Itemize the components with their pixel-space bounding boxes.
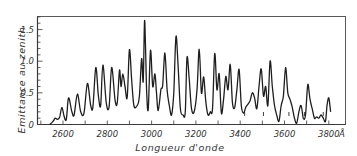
x-axis-label: Longueur d'onde	[135, 142, 224, 153]
spectrum-line	[50, 20, 331, 124]
x-tick-label: 2800	[96, 129, 118, 139]
x-tick-label: 3400	[229, 129, 251, 139]
spectral-line-markers	[245, 112, 324, 116]
y-tick-label: 0	[29, 120, 34, 130]
x-unit-label: Å	[338, 128, 345, 139]
x-tick-label: 3200	[185, 129, 207, 139]
x-tick-label: 3000	[141, 129, 163, 139]
x-tick-label: 2600	[52, 129, 74, 139]
x-tick-label: 3600	[274, 129, 296, 139]
x-ticks: 2600280030003200340036003800	[41, 121, 340, 140]
x-tick-label: 3800	[318, 129, 340, 139]
y-axis-label: Emittance au zenith	[16, 27, 27, 134]
spectrum-chart: 00.51.01.5 2600280030003200340036003800 …	[0, 0, 357, 156]
